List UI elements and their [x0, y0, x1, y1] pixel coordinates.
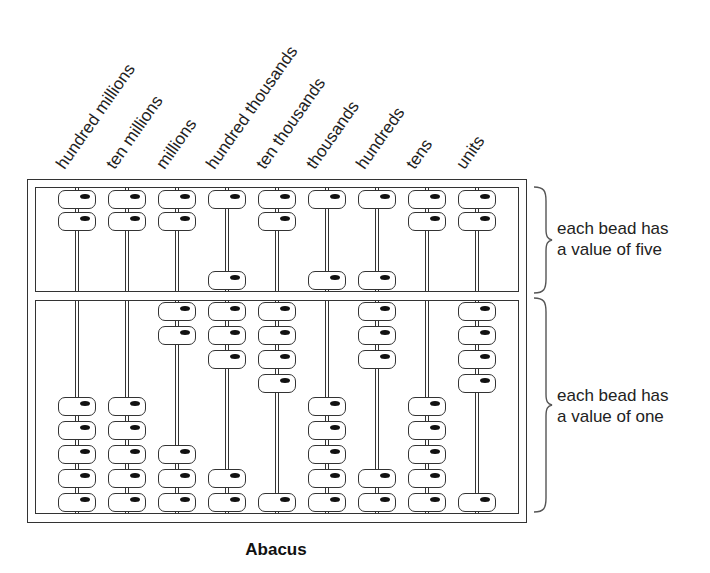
bead[interactable]	[208, 302, 246, 321]
bead-highlight-icon	[330, 194, 340, 199]
bead[interactable]	[158, 493, 196, 512]
bead[interactable]	[58, 493, 96, 512]
bead-highlight-icon	[430, 216, 440, 221]
bead-highlight-icon	[280, 306, 290, 311]
bead[interactable]	[408, 190, 446, 209]
bead[interactable]	[108, 421, 146, 440]
bead[interactable]	[458, 326, 496, 345]
bead-highlight-icon	[130, 401, 140, 406]
bead-highlight-icon	[80, 425, 90, 430]
bead[interactable]	[208, 190, 246, 209]
bead[interactable]	[208, 469, 246, 488]
bead-highlight-icon	[330, 401, 340, 406]
bead[interactable]	[458, 350, 496, 369]
bead[interactable]	[108, 190, 146, 209]
bead-highlight-icon	[330, 473, 340, 478]
bead-highlight-icon	[130, 194, 140, 199]
bead[interactable]	[408, 397, 446, 416]
bead[interactable]	[308, 493, 346, 512]
bead[interactable]	[258, 302, 296, 321]
bead-highlight-icon	[180, 473, 190, 478]
bead-highlight-icon	[430, 401, 440, 406]
bead-highlight-icon	[80, 216, 90, 221]
bead[interactable]	[158, 445, 196, 464]
bead[interactable]	[158, 302, 196, 321]
bead[interactable]	[58, 469, 96, 488]
bead-highlight-icon	[230, 194, 240, 199]
bead[interactable]	[208, 350, 246, 369]
bead[interactable]	[58, 190, 96, 209]
bead[interactable]	[258, 374, 296, 393]
bead-highlight-icon	[430, 473, 440, 478]
bead-highlight-icon	[380, 275, 390, 280]
bead[interactable]	[258, 190, 296, 209]
bead-highlight-icon	[280, 330, 290, 335]
bead-highlight-icon	[380, 497, 390, 502]
bead[interactable]	[258, 212, 296, 231]
bead[interactable]	[358, 326, 396, 345]
bead-highlight-icon	[430, 425, 440, 430]
bead-highlight-icon	[230, 473, 240, 478]
bead[interactable]	[308, 469, 346, 488]
bead[interactable]	[108, 212, 146, 231]
bead[interactable]	[208, 493, 246, 512]
bead-highlight-icon	[480, 330, 490, 335]
bead[interactable]	[408, 445, 446, 464]
bead[interactable]	[308, 190, 346, 209]
bead[interactable]	[58, 421, 96, 440]
bead-highlight-icon	[330, 497, 340, 502]
bead[interactable]	[308, 397, 346, 416]
bead[interactable]	[358, 302, 396, 321]
bead-highlight-icon	[280, 216, 290, 221]
bead-highlight-icon	[180, 497, 190, 502]
bead[interactable]	[108, 397, 146, 416]
bead-highlight-icon	[480, 216, 490, 221]
bead[interactable]	[408, 212, 446, 231]
bead-highlight-icon	[130, 497, 140, 502]
bead-highlight-icon	[180, 194, 190, 199]
bead[interactable]	[358, 493, 396, 512]
bead[interactable]	[358, 271, 396, 290]
bead-highlight-icon	[280, 497, 290, 502]
bead[interactable]	[58, 212, 96, 231]
bead[interactable]	[258, 326, 296, 345]
bead-highlight-icon	[180, 306, 190, 311]
bead[interactable]	[108, 445, 146, 464]
bead-highlight-icon	[80, 194, 90, 199]
bead[interactable]	[158, 326, 196, 345]
column-label: millions	[153, 116, 199, 172]
column-label: units	[453, 133, 488, 172]
bead[interactable]	[408, 493, 446, 512]
bead[interactable]	[208, 326, 246, 345]
bead[interactable]	[458, 302, 496, 321]
bead[interactable]	[458, 190, 496, 209]
bead[interactable]	[358, 469, 396, 488]
bead-highlight-icon	[230, 497, 240, 502]
bead[interactable]	[258, 493, 296, 512]
column-label: tens	[403, 136, 435, 172]
bead-highlight-icon	[180, 449, 190, 454]
bead[interactable]	[358, 190, 396, 209]
bead[interactable]	[308, 271, 346, 290]
bead[interactable]	[158, 190, 196, 209]
bead[interactable]	[358, 350, 396, 369]
bead[interactable]	[158, 469, 196, 488]
bead[interactable]	[458, 493, 496, 512]
bead[interactable]	[408, 421, 446, 440]
bead[interactable]	[208, 271, 246, 290]
bead[interactable]	[408, 469, 446, 488]
bead-highlight-icon	[430, 194, 440, 199]
bead-highlight-icon	[80, 449, 90, 454]
bead[interactable]	[58, 445, 96, 464]
bead[interactable]	[108, 469, 146, 488]
bead[interactable]	[308, 445, 346, 464]
lower-brace-icon	[530, 296, 560, 516]
bead[interactable]	[158, 212, 196, 231]
bead[interactable]	[458, 374, 496, 393]
bead-highlight-icon	[330, 425, 340, 430]
bead[interactable]	[458, 212, 496, 231]
bead[interactable]	[258, 350, 296, 369]
bead[interactable]	[108, 493, 146, 512]
bead[interactable]	[58, 397, 96, 416]
bead[interactable]	[308, 421, 346, 440]
